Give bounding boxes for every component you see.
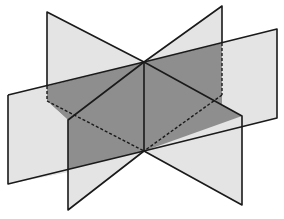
- intersecting-planes-figure: [0, 0, 284, 219]
- diagram-canvas: [0, 0, 284, 219]
